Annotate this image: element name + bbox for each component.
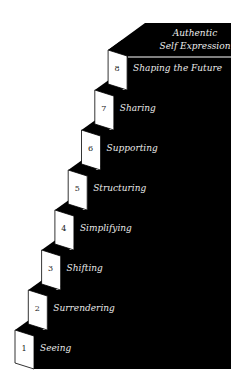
step-label-4: Simplifying — [80, 223, 132, 233]
step-number-6: 6 — [84, 144, 98, 153]
step-label-1: Seeing — [40, 343, 71, 353]
step-label-2: Surrendering — [53, 303, 115, 313]
top-label-line2: Self Expression — [150, 40, 240, 53]
step-number-5: 5 — [70, 184, 84, 193]
staircase-graphic — [0, 0, 244, 391]
step-label-7: Sharing — [120, 103, 156, 113]
step-label-8: Shaping the Future — [133, 63, 222, 73]
step-number-8: 8 — [110, 64, 124, 73]
step-number-1: 1 — [17, 344, 31, 353]
step-number-4: 4 — [57, 224, 71, 233]
step-number-2: 2 — [30, 304, 44, 313]
step-label-5: Structuring — [93, 183, 146, 193]
step-number-3: 3 — [44, 264, 58, 273]
step-label-3: Shifting — [67, 263, 103, 273]
step-label-6: Supporting — [107, 143, 158, 153]
top-label: Authentic Self Expression — [150, 27, 240, 53]
top-label-line1: Authentic — [150, 27, 240, 40]
step-number-7: 7 — [97, 104, 111, 113]
